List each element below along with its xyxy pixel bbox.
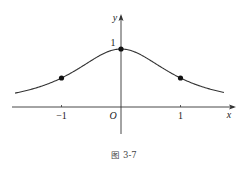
x-axis-label: x bbox=[226, 109, 232, 120]
x-tick-label: −1 bbox=[56, 110, 67, 121]
x-tick-label: 1 bbox=[178, 110, 183, 121]
data-point bbox=[59, 75, 64, 80]
function-curve bbox=[15, 49, 224, 93]
origin-label: O bbox=[109, 110, 116, 121]
data-point bbox=[178, 75, 183, 80]
y-axis-label: y bbox=[112, 12, 118, 23]
chart: x y O −1 1 1 图 3-7 bbox=[0, 0, 247, 169]
figure-caption: 图 3-7 bbox=[111, 150, 136, 160]
y-tick-label: 1 bbox=[111, 37, 116, 48]
data-point bbox=[118, 46, 123, 51]
